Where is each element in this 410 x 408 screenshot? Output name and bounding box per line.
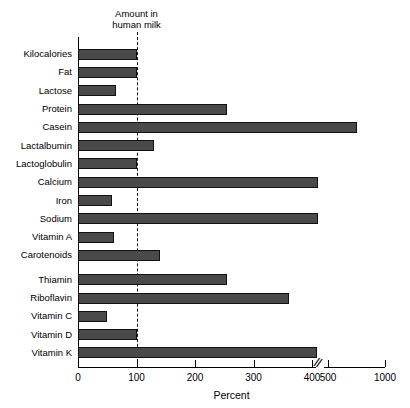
bar-lactose: [78, 85, 116, 96]
x-tick-label-1000: 1000: [374, 372, 396, 383]
x-tick-label-200: 200: [187, 372, 204, 383]
x-axis-title: Percent: [213, 389, 249, 401]
category-label-thiamin: Thiamin: [38, 275, 72, 285]
bar-protein: [78, 104, 227, 115]
category-label-carotenoids: Carotenoids: [21, 250, 72, 260]
category-label-iron: Iron: [56, 196, 72, 206]
category-label-vitamin-d: Vitamin D: [31, 330, 72, 340]
category-label-vitamin-k: Vitamin K: [32, 348, 72, 358]
category-label-fat: Fat: [58, 67, 72, 77]
reference-line-100-percent: [137, 32, 138, 367]
bar-vitamin-a: [78, 232, 114, 243]
bar-kilocalories: [78, 49, 137, 60]
category-label-lactalbumin: Lactalbumin: [21, 141, 72, 151]
x-tick-1000: [385, 360, 386, 367]
reference-line-caption: Amount in human milk: [82, 8, 192, 30]
x-tick-500: [328, 360, 329, 367]
bar-fat: [78, 67, 137, 78]
x-tick-300: [254, 360, 255, 367]
category-label-vitamin-c: Vitamin C: [31, 311, 72, 321]
category-label-riboflavin: Riboflavin: [30, 293, 72, 303]
bar-vitamin-k: [78, 347, 317, 358]
bar-lactoglobulin: [78, 158, 137, 169]
category-label-protein: Protein: [42, 104, 72, 114]
bar-lactalbumin: [78, 140, 154, 151]
bar-carotenoids: [78, 250, 160, 261]
x-axis-line-left: [78, 367, 316, 368]
x-tick-label-300: 300: [245, 372, 262, 383]
bar-vitamin-d: [78, 329, 137, 340]
category-label-kilocalories: Kilocalories: [23, 49, 72, 59]
category-label-lactose: Lactose: [39, 86, 72, 96]
bar-casein: [78, 122, 357, 133]
x-tick-label-100: 100: [128, 372, 145, 383]
bar-thiamin: [78, 274, 227, 285]
category-label-casein: Casein: [42, 122, 72, 132]
category-label-sodium: Sodium: [40, 214, 72, 224]
x-tick-label-0: 0: [75, 372, 81, 383]
bar-chart: Amount in human milk KilocaloriesFatLact…: [0, 0, 410, 408]
bar-iron: [78, 195, 112, 206]
x-tick-200: [195, 360, 196, 367]
bar-vitamin-c: [78, 311, 107, 322]
bar-sodium: [78, 213, 318, 224]
category-label-calcium: Calcium: [38, 177, 72, 187]
bar-calcium: [78, 177, 318, 188]
bar-riboflavin: [78, 293, 289, 304]
category-label-lactoglobulin: Lactoglobulin: [16, 159, 72, 169]
category-label-vitamin-a: Vitamin A: [32, 232, 72, 242]
x-tick-label-500: 500: [320, 372, 337, 383]
x-tick-0: [78, 360, 79, 367]
x-axis-line-right: [324, 367, 385, 368]
x-tick-100: [137, 360, 138, 367]
x-tick-label-400: 400: [304, 372, 321, 383]
